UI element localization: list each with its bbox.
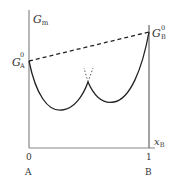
phase-alpha-curve [29, 61, 88, 110]
point-b-sub: B [161, 33, 166, 41]
component-a-label: A [24, 167, 32, 177]
mechanical-mixture-dashed-line [29, 32, 149, 61]
x-axis-label: xB [154, 136, 165, 149]
phase-beta-curve [88, 32, 149, 102]
point-a-sub: A [19, 62, 25, 70]
component-b-label: B [145, 167, 152, 177]
metastable-extension-right [88, 68, 93, 82]
y-axis-label: Gm [33, 13, 49, 27]
gibbs-energy-diagram: Gm G 0 A G 0 B xB 0 1 A B [0, 0, 180, 189]
point-a-sup: 0 [20, 51, 24, 59]
x-tick-1: 1 [146, 152, 152, 162]
point-b-label: G [152, 27, 161, 40]
x-tick-0: 0 [26, 152, 32, 162]
metastable-extension-left [84, 68, 88, 82]
point-b-sup: 0 [161, 24, 165, 32]
